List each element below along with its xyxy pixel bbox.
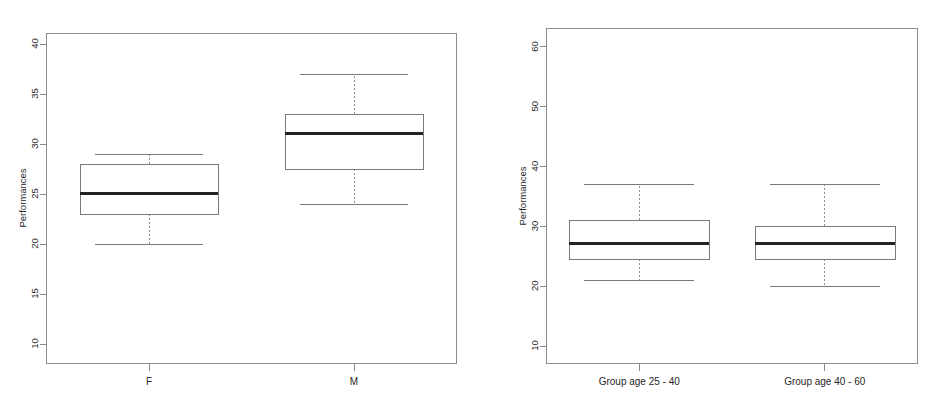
y-axis-title: Performances [17,168,28,227]
y-tick-label: 40 [529,161,540,172]
y-tick-label: 10 [29,338,40,349]
y-axis-tick-labels: 102030405060 [529,41,540,351]
boxplot-chart-agegroup: 102030405060 Group age 25 - 40Group age … [500,0,944,419]
boxplot-panel-gender: 10152025303540 FM Performances [0,0,500,419]
y-tick-label: 60 [529,41,540,52]
y-tick-label: 20 [529,280,540,291]
boxplot-series [569,184,895,286]
y-tick-label: 25 [29,188,40,199]
y-tick-label: 10 [529,340,540,351]
y-tick-label: 15 [29,288,40,299]
x-axis-ticks [149,364,354,371]
y-tick-label: 30 [529,221,540,232]
y-tick-label: 40 [29,38,40,49]
plot-frame [547,29,918,364]
boxplot-box [285,74,424,205]
y-tick-label: 50 [529,101,540,112]
x-category-label: Group age 25 - 40 [599,376,681,387]
x-axis-ticks [639,364,825,371]
boxplot-box [569,184,710,280]
interquartile-box [570,220,710,259]
x-category-label: M [350,376,358,387]
y-tick-label: 30 [29,138,40,149]
y-axis-ticks [540,47,547,346]
boxplot-panel-agegroup: 102030405060 Group age 25 - 40Group age … [500,0,944,419]
y-tick-label: 35 [29,88,40,99]
boxplot-chart-gender: 10152025303540 FM Performances [0,0,500,419]
interquartile-box [81,164,219,214]
figure-root: 10152025303540 FM Performances 102030405… [0,0,944,419]
boxplot-box [80,154,219,245]
boxplot-box [755,184,896,286]
x-category-label: F [146,376,152,387]
y-axis-title: Performances [517,166,528,225]
interquartile-box [286,114,424,169]
x-axis-category-labels: FM [146,376,358,387]
x-category-label: Group age 40 - 60 [784,376,866,387]
boxplot-series [80,74,424,245]
x-axis-category-labels: Group age 25 - 40Group age 40 - 60 [599,376,866,387]
y-axis-tick-labels: 10152025303540 [29,38,40,349]
y-tick-label: 20 [29,238,40,249]
y-axis-ticks [40,44,47,344]
